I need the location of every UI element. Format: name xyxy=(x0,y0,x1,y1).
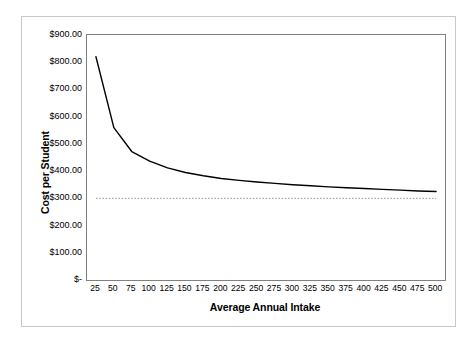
x-tick-label: 500 xyxy=(426,283,444,297)
x-tick-label: 25 xyxy=(86,283,104,297)
x-tick-label: 100 xyxy=(140,283,158,297)
x-tick-label: 475 xyxy=(408,283,426,297)
plot-svg xyxy=(87,35,445,280)
plot-area xyxy=(86,34,446,281)
x-tick-label: 375 xyxy=(337,283,355,297)
x-tick-label: 300 xyxy=(283,283,301,297)
x-tick-label: 225 xyxy=(229,283,247,297)
y-tick-label: $300.00 xyxy=(26,192,82,202)
y-tick-label: $800.00 xyxy=(26,56,82,66)
y-tick-label: $900.00 xyxy=(26,29,82,39)
y-tick-label: $600.00 xyxy=(26,111,82,121)
x-tick-label: 250 xyxy=(247,283,265,297)
y-tick-label: $- xyxy=(26,274,82,284)
x-tick-label: 400 xyxy=(355,283,373,297)
x-tick-label: 50 xyxy=(104,283,122,297)
x-axis-tick-labels: 2550751001251501752002252502753003253503… xyxy=(86,283,444,297)
cost-per-student-line xyxy=(96,57,436,192)
x-tick-label: 425 xyxy=(373,283,391,297)
x-tick-label: 350 xyxy=(319,283,337,297)
y-tick-label: $100.00 xyxy=(26,247,82,257)
x-tick-label: 125 xyxy=(158,283,176,297)
x-tick-label: 200 xyxy=(211,283,229,297)
x-tick-label: 450 xyxy=(390,283,408,297)
chart-container: Cost per Student $900.00$800.00$700.00$6… xyxy=(21,16,456,327)
x-tick-label: 325 xyxy=(301,283,319,297)
x-tick-label: 175 xyxy=(193,283,211,297)
y-tick-label: $700.00 xyxy=(26,83,82,93)
x-tick-label: 275 xyxy=(265,283,283,297)
x-tick-label: 150 xyxy=(176,283,194,297)
x-axis-title: Average Annual Intake xyxy=(86,301,444,313)
y-tick-label: $500.00 xyxy=(26,138,82,148)
y-tick-label: $400.00 xyxy=(26,165,82,175)
y-axis-tick-labels: $900.00$800.00$700.00$600.00$500.00$400.… xyxy=(22,34,82,279)
y-tick-label: $200.00 xyxy=(26,220,82,230)
x-tick-label: 75 xyxy=(122,283,140,297)
